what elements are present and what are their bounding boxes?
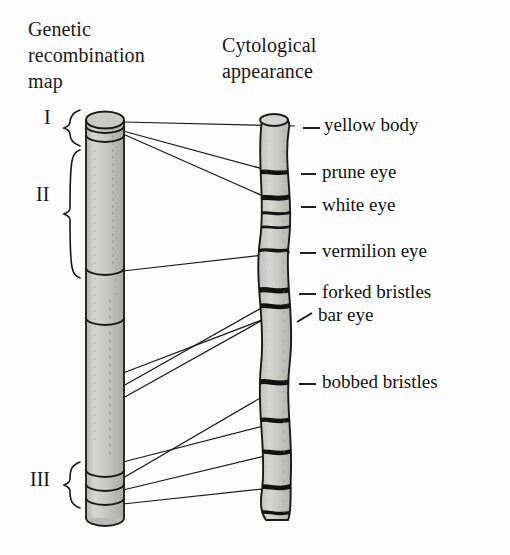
brace-region-iii [64,462,80,508]
region-label-region-i: I [44,107,51,127]
figure-canvas: Genetic recombination map Cytological ap… [0,0,510,555]
tick-bar-eye [297,313,312,322]
cytological-chromosome [257,114,292,520]
gene-label-prune-eye: prune eye [322,162,396,182]
region-label-region-ii: II [36,184,49,204]
connector-a [123,421,283,462]
genetic-map-chromosome [86,112,124,527]
gene-label-bobbed-bristles: bobbed bristles [322,372,438,392]
gene-label-forked-bristles: forked bristles [322,282,431,302]
gene-label-white-eye: white eye [322,195,395,215]
region-braces [64,110,80,508]
label-tick-marks [297,128,320,384]
region-label-region-iii: III [30,469,50,489]
brace-region-ii [64,150,80,278]
gene-label-bar-eye: bar eye [318,305,373,325]
gene-label-vermilion-eye: vermilion eye [322,241,427,261]
connector-c [123,487,281,504]
diagram-artwork [0,0,510,555]
brace-region-i [64,110,80,146]
gene-label-yellow-body: yellow body [324,115,418,135]
connector-b [123,452,282,490]
